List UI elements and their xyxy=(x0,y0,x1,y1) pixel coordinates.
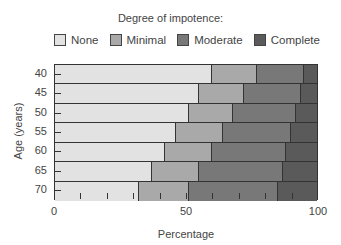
legend-item-complete: Complete xyxy=(254,34,320,46)
bar-segment-complete xyxy=(296,104,317,122)
y-tick xyxy=(55,151,61,152)
bar-segment-complete xyxy=(283,162,317,180)
bar-row-65 xyxy=(55,162,317,181)
bar-segment-none xyxy=(55,143,165,161)
bar-segment-minimal xyxy=(165,143,212,161)
x-minor-tick xyxy=(107,193,108,199)
bar-segment-minimal xyxy=(176,123,223,141)
bar-segment-minimal xyxy=(139,182,189,201)
bar-segment-complete xyxy=(286,143,317,161)
legend-label-moderate: Moderate xyxy=(194,34,243,46)
bar-segment-none xyxy=(55,104,189,122)
bar-segment-none xyxy=(55,84,199,102)
legend-item-minimal: Minimal xyxy=(110,34,167,46)
legend-label-minimal: Minimal xyxy=(127,34,167,46)
bar-segment-moderate xyxy=(244,84,302,102)
x-minor-tick xyxy=(186,193,187,199)
bar-segment-none xyxy=(55,65,212,83)
bar-segment-none xyxy=(55,123,176,141)
y-tick-label: 55 xyxy=(23,125,47,137)
bar-segment-minimal xyxy=(212,65,257,83)
bar-segment-complete xyxy=(278,182,317,201)
bar-segment-complete xyxy=(301,84,317,102)
bar-segment-moderate xyxy=(223,123,291,141)
legend: None Minimal Moderate Complete xyxy=(54,34,331,46)
y-tick-label: 45 xyxy=(23,86,47,98)
y-tick xyxy=(55,113,61,114)
y-tick xyxy=(55,190,61,191)
y-tick-label: 40 xyxy=(23,67,47,79)
bar-segment-complete xyxy=(291,123,317,141)
legend-swatch-complete xyxy=(254,34,266,46)
legend-swatch-moderate xyxy=(177,34,189,46)
bar-row-40 xyxy=(55,65,317,84)
x-minor-tick xyxy=(160,193,161,199)
bar-segment-none xyxy=(55,182,139,201)
legend-label-none: None xyxy=(71,34,99,46)
x-minor-tick xyxy=(133,193,134,199)
bar-row-60 xyxy=(55,143,317,162)
legend-item-none: None xyxy=(54,34,99,46)
x-axis-title: Percentage xyxy=(0,228,341,240)
bar-segment-moderate xyxy=(233,104,296,122)
x-minor-tick xyxy=(212,193,213,199)
x-minor-tick xyxy=(292,193,293,199)
legend-swatch-none xyxy=(54,34,66,46)
y-tick xyxy=(55,93,61,94)
legend-label-complete: Complete xyxy=(271,34,320,46)
bar-segment-none xyxy=(55,162,152,180)
x-minor-tick xyxy=(239,193,240,199)
y-tick-label: 65 xyxy=(23,164,47,176)
bar-segment-moderate xyxy=(199,162,283,180)
bar-row-50 xyxy=(55,104,317,123)
y-tick xyxy=(55,74,61,75)
bar-row-55 xyxy=(55,123,317,142)
bar-segment-complete xyxy=(304,65,317,83)
x-tick-label: 100 xyxy=(303,205,333,217)
y-tick xyxy=(55,171,61,172)
bar-segment-minimal xyxy=(199,84,244,102)
bar-row-45 xyxy=(55,84,317,103)
bar-segment-minimal xyxy=(189,104,234,122)
y-tick-label: 50 xyxy=(23,106,47,118)
y-tick-label: 60 xyxy=(23,144,47,156)
y-tick-label: 70 xyxy=(23,183,47,195)
legend-swatch-minimal xyxy=(110,34,122,46)
x-tick-label: 50 xyxy=(171,205,201,217)
y-tick xyxy=(55,132,61,133)
plot-area xyxy=(54,64,318,200)
legend-item-moderate: Moderate xyxy=(177,34,243,46)
bar-segment-moderate xyxy=(212,143,285,161)
bar-segment-moderate xyxy=(257,65,304,83)
legend-title: Degree of impotence: xyxy=(0,12,341,24)
x-minor-tick xyxy=(80,193,81,199)
bar-segment-minimal xyxy=(152,162,199,180)
x-tick-label: 0 xyxy=(39,205,69,217)
x-minor-tick xyxy=(265,193,266,199)
